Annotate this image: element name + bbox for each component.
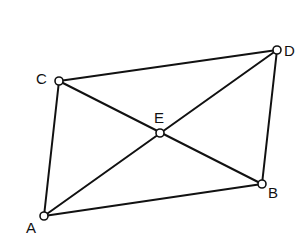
point-e: [156, 129, 164, 137]
labels-group: ABCDE: [26, 42, 295, 236]
geometry-diagram: ABCDE: [0, 0, 304, 247]
point-label-e: E: [154, 109, 164, 126]
point-a: [40, 212, 48, 220]
point-d: [273, 46, 281, 54]
point-c: [55, 77, 63, 85]
point-label-b: B: [268, 184, 278, 201]
point-label-d: D: [284, 42, 295, 59]
segment-db: [262, 50, 277, 184]
point-label-a: A: [26, 219, 36, 236]
point-label-c: C: [36, 70, 47, 87]
segment-ba: [44, 184, 262, 216]
segment-cd: [59, 50, 277, 81]
point-b: [258, 180, 266, 188]
segment-ac: [44, 81, 59, 216]
